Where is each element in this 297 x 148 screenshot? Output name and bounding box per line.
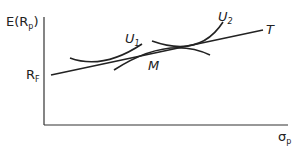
indifference-curve-u2 <box>152 22 223 46</box>
u1-label: U1 <box>125 31 140 48</box>
market-portfolio-label: M <box>148 58 159 73</box>
y-axis-label: E(Rp) <box>6 14 38 31</box>
cml-diagram: E(Rp) RF T M U1 U2 σp <box>0 0 297 148</box>
line-t-label: T <box>266 22 275 37</box>
x-axis-label: σp <box>278 129 291 146</box>
diagram-canvas: E(Rp) RF T M U1 U2 σp <box>0 0 297 148</box>
risk-free-label: RF <box>26 67 40 84</box>
u2-label: U2 <box>218 9 233 26</box>
indifference-curve-u1 <box>70 44 142 62</box>
